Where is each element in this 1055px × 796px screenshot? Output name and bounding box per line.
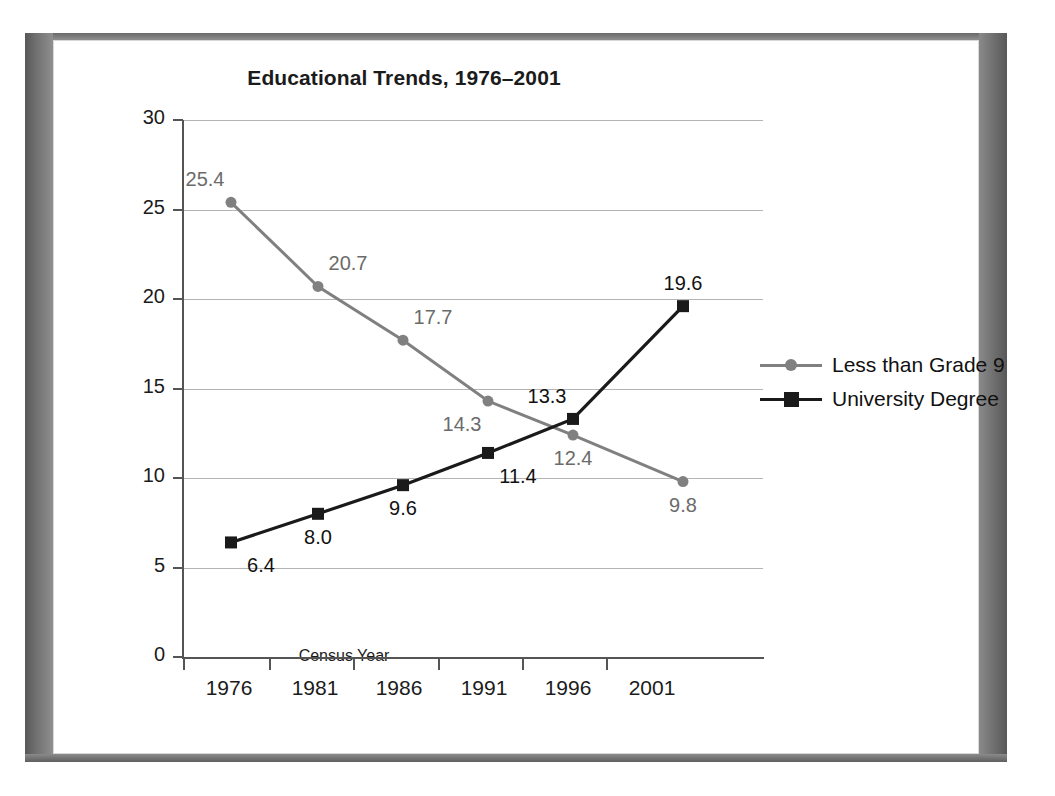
legend-item-label: University Degree (832, 387, 999, 411)
line-chart: Educational Trends, 1976–2001 Percentage… (54, 41, 980, 755)
chart-legend: Less than Grade 9University Degree (760, 348, 1055, 416)
frame-shadow-left (25, 33, 53, 761)
data-point-label: 9.8 (638, 494, 728, 517)
data-point-label: 25.4 (160, 168, 250, 191)
data-point-marker (226, 197, 237, 208)
data-point-marker (313, 281, 324, 292)
x-axis-tick-label: 1981 (270, 676, 360, 700)
data-point-label: 20.7 (303, 252, 393, 275)
chart-title: Educational Trends, 1976–2001 (54, 66, 754, 90)
data-point-marker (677, 300, 689, 312)
y-axis-tick-label: 30 (113, 106, 165, 129)
x-axis-tick-label: 1996 (523, 676, 613, 700)
data-point-label: 9.6 (358, 497, 448, 520)
data-point-marker (567, 413, 579, 425)
data-point-label: 6.4 (216, 554, 306, 577)
y-axis-tick-label: 15 (113, 375, 165, 398)
legend-item-2[interactable]: University Degree (760, 382, 1055, 416)
data-point-label: 17.7 (388, 306, 478, 329)
data-point-label: 13.3 (502, 385, 592, 408)
legend-item-1[interactable]: Less than Grade 9 (760, 348, 1055, 382)
y-axis-tick-label: 10 (113, 464, 165, 487)
x-axis-tick-label: 1991 (439, 676, 529, 700)
x-axis-tick (438, 658, 440, 670)
data-point-marker (312, 508, 324, 520)
y-axis-tick-label: 20 (113, 285, 165, 308)
data-point-marker (397, 479, 409, 491)
data-point-label: 19.6 (638, 272, 728, 295)
y-axis-tick (173, 388, 183, 390)
x-axis-tick-label: 1976 (184, 676, 274, 700)
chart-card: Educational Trends, 1976–2001 Percentage… (53, 40, 979, 754)
y-axis-tick (173, 209, 183, 211)
data-point-marker (483, 396, 494, 407)
data-point-label: 11.4 (473, 465, 563, 488)
legend-item-label: Less than Grade 9 (832, 353, 1005, 377)
x-axis-tick (606, 658, 608, 670)
data-point-label: 8.0 (273, 526, 363, 549)
y-axis-tick-label: 5 (113, 554, 165, 577)
square-marker (760, 389, 822, 409)
data-point-marker (482, 447, 494, 459)
y-axis-title: Percentage of Population 15 Years and Ol… (0, 88, 1, 548)
square-marker (784, 392, 799, 407)
x-axis-tick (269, 658, 271, 670)
y-axis-tick (173, 298, 183, 300)
x-axis-tick (522, 658, 524, 670)
data-point-marker (678, 476, 689, 487)
x-axis-tick-label: 1986 (354, 676, 444, 700)
data-point-label: 14.3 (417, 413, 507, 436)
y-axis-tick (173, 119, 183, 121)
frame-shadow-top (25, 33, 1007, 40)
data-point-marker (398, 335, 409, 346)
x-axis-tick-label: 2001 (607, 676, 697, 700)
data-point-marker (225, 536, 237, 548)
y-axis-tick-label: 0 (113, 643, 165, 666)
y-axis-tick-label: 25 (113, 196, 165, 219)
frame-shadow-bottom (25, 754, 1007, 762)
series-line-1 (231, 202, 683, 481)
plot-area: 051015202530 197619811986199119962001 25… (183, 120, 763, 657)
circle-marker (785, 359, 797, 371)
y-axis-tick (173, 477, 183, 479)
y-axis-tick (173, 567, 183, 569)
x-axis-tick (353, 658, 355, 670)
circle-marker (760, 355, 822, 375)
figure-page: Educational Trends, 1976–2001 Percentage… (0, 0, 1055, 796)
data-point-marker (568, 430, 579, 441)
y-axis-tick (173, 656, 183, 658)
x-axis-tick (183, 658, 185, 670)
